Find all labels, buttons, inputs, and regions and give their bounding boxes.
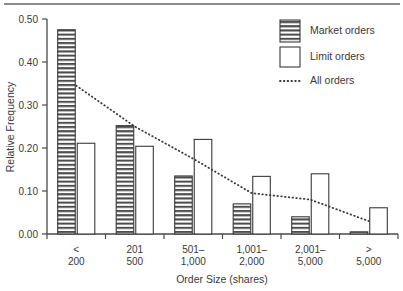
y-tick-label: 0.50 xyxy=(19,14,39,25)
x-category-label: 2,000 xyxy=(239,256,264,267)
x-category-label: 5,000 xyxy=(298,256,323,267)
x-category-label: < xyxy=(73,244,79,255)
y-tick-label: 0.20 xyxy=(19,143,39,154)
x-category-label: 5,000 xyxy=(356,256,381,267)
x-axis-category-labels: <200201500501–1,0001,001–2,0002,001–5,00… xyxy=(68,244,382,267)
bar-limit-orders xyxy=(370,208,388,234)
bar-market-orders xyxy=(58,30,76,234)
bar-limit-orders xyxy=(253,176,271,234)
legend-swatch-limit-orders xyxy=(280,47,300,67)
x-category-label: 500 xyxy=(126,256,143,267)
bar-market-orders xyxy=(233,204,251,234)
bar-limit-orders xyxy=(194,139,212,234)
legend-label-market-orders: Market orders xyxy=(310,24,375,36)
bar-limit-orders xyxy=(77,143,95,234)
y-tick-label: 0.30 xyxy=(19,100,39,111)
x-axis-title: Order Size (shares) xyxy=(176,273,268,285)
y-tick-label: 0.40 xyxy=(19,57,39,68)
chart-legend: Market orders Limit orders All orders xyxy=(280,20,375,86)
x-category-label: 501– xyxy=(182,244,205,255)
x-axis: <200201500501–1,0001,001–2,0002,001–5,00… xyxy=(47,234,398,285)
y-axis: 0.000.100.200.300.400.50 Relative Freque… xyxy=(4,14,47,240)
x-category-label: 200 xyxy=(68,256,85,267)
legend-label-limit-orders: Limit orders xyxy=(310,50,365,62)
x-category-label: 2,001– xyxy=(295,244,326,255)
bar-market-orders xyxy=(116,126,134,234)
bar-market-orders xyxy=(175,176,193,234)
x-axis-ticks xyxy=(47,234,398,239)
y-axis-tick-labels: 0.000.100.200.300.400.50 xyxy=(19,14,39,240)
legend-swatch-market-orders xyxy=(280,20,300,42)
x-category-label: 201 xyxy=(126,244,143,255)
bar-market-orders xyxy=(350,232,368,234)
y-axis-title: Relative Frequency xyxy=(4,81,16,172)
y-axis-ticks xyxy=(42,19,47,234)
x-category-label: > xyxy=(366,244,372,255)
bar-limit-orders xyxy=(136,146,154,234)
x-category-label: 1,001– xyxy=(236,244,267,255)
legend-label-all-orders: All orders xyxy=(310,74,354,86)
bar-chart-plot: 0.000.100.200.300.400.50 Relative Freque… xyxy=(0,0,403,291)
bar-limit-orders xyxy=(311,174,329,234)
y-tick-label: 0.10 xyxy=(19,186,39,197)
bar-market-orders xyxy=(292,217,310,234)
y-tick-label: 0.00 xyxy=(19,229,39,240)
chart-figure: 0.000.100.200.300.400.50 Relative Freque… xyxy=(0,0,403,291)
x-category-label: 1,000 xyxy=(181,256,206,267)
